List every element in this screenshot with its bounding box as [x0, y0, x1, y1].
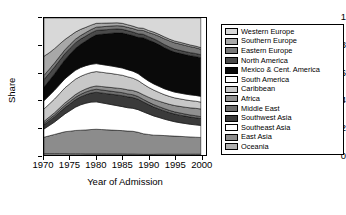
legend-swatch	[225, 86, 238, 93]
y-tick-mark	[38, 45, 42, 46]
x-tick-mark	[69, 156, 70, 160]
legend-swatch	[225, 47, 238, 54]
legend-swatch	[225, 124, 238, 131]
y-tick-mark	[38, 73, 42, 74]
legend-item: Southern Europe	[224, 37, 341, 47]
legend-label: Eastern Europe	[241, 47, 292, 55]
legend-label: East Asia	[241, 133, 272, 141]
legend-label: North America	[241, 57, 288, 65]
legend-swatch	[225, 67, 238, 74]
legend-item: South America	[224, 75, 341, 85]
y-tick-mark	[38, 128, 42, 129]
legend-swatch	[225, 76, 238, 83]
legend-swatch	[225, 57, 238, 64]
legend-item: Mexico & Cent. America	[224, 65, 341, 75]
legend-item: North America	[224, 56, 341, 66]
legend-label: Africa	[241, 95, 260, 103]
x-axis-label: Year of Admission	[43, 176, 207, 187]
stacked-area-svg	[44, 18, 206, 155]
legend-swatch	[225, 105, 238, 112]
legend-label: Southern Europe	[241, 37, 297, 45]
y-tick-mark	[38, 156, 42, 157]
legend-swatch	[225, 134, 238, 141]
legend-item: Africa	[224, 94, 341, 104]
legend-item: Southwest Asia	[224, 113, 341, 123]
legend-item: Eastern Europe	[224, 46, 341, 56]
legend-item: East Asia	[224, 133, 341, 143]
y-tick-mark	[38, 100, 42, 101]
y-tick-label: 1	[308, 12, 346, 21]
legend-label: Western Europe	[241, 28, 294, 36]
y-tick-mark	[38, 17, 42, 18]
x-tick-mark	[202, 156, 203, 160]
legend: Western EuropeSouthern EuropeEastern Eur…	[221, 24, 344, 155]
legend-swatch	[225, 38, 238, 45]
legend-swatch	[225, 115, 238, 122]
legend-swatch	[225, 143, 238, 150]
y-axis-label: Share	[6, 77, 17, 102]
x-tick-mark	[122, 156, 123, 160]
legend-swatch	[225, 95, 238, 102]
x-tick-label: 2000	[185, 159, 219, 170]
legend-item: Oceania	[224, 142, 341, 152]
legend-item: Middle East	[224, 104, 341, 114]
legend-label: Caribbean	[241, 85, 275, 93]
x-tick-mark	[175, 156, 176, 160]
legend-item: Western Europe	[224, 27, 341, 37]
legend-label: South America	[241, 76, 289, 84]
legend-swatch	[225, 28, 238, 35]
legend-label: Mexico & Cent. America	[241, 66, 320, 74]
legend-label: Oceania	[241, 143, 269, 151]
x-tick-mark	[96, 156, 97, 160]
chart-figure: Share 00.20.40.60.81 1970197519801985199…	[0, 0, 346, 215]
x-tick-mark	[149, 156, 150, 160]
plot-area	[43, 17, 207, 156]
legend-item: Caribbean	[224, 85, 341, 95]
x-tick-mark	[43, 156, 44, 160]
legend-label: Southeast Asia	[241, 124, 290, 132]
legend-label: Middle East	[241, 105, 280, 113]
legend-item: Southeast Asia	[224, 123, 341, 133]
legend-label: Southwest Asia	[241, 114, 292, 122]
